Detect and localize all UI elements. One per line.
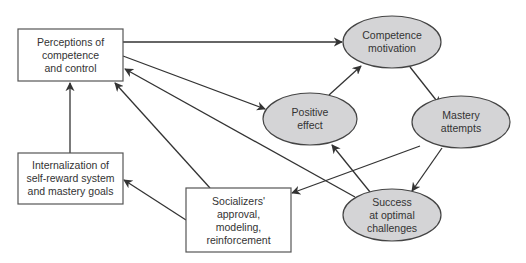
node-mastery-line-1: Mastery xyxy=(442,109,480,121)
node-competence-line-2: motivation xyxy=(368,42,416,54)
edge-perceptions-to-positive-effect xyxy=(123,56,265,109)
node-internalization-line-3: and mastery goals xyxy=(28,185,114,197)
node-mastery-line-2: attempts xyxy=(441,122,481,134)
node-positive-effect-line-2: effect xyxy=(297,119,323,131)
node-internalization: Internalization of self-reward system an… xyxy=(18,153,123,204)
node-perceptions-line-3: and control xyxy=(45,62,97,74)
edge-socializers-to-perceptions xyxy=(115,83,210,188)
node-internalization-line-1: Internalization of xyxy=(32,159,109,171)
node-perceptions: Perceptions of competence and control xyxy=(18,29,123,81)
node-socializers-line-3: modeling, xyxy=(216,221,262,233)
edge-mastery-to-socializers xyxy=(292,146,420,193)
node-positive-effect-line-1: Positive xyxy=(292,106,329,118)
node-success-line-2: at optimal xyxy=(369,209,415,221)
node-success: Success at optimal challenges xyxy=(343,189,441,241)
node-socializers-line-4: reinforcement xyxy=(206,234,270,246)
node-positive-effect: Positive effect xyxy=(263,93,357,145)
node-success-line-1: Success xyxy=(372,196,412,208)
node-socializers-line-1: Socializers' xyxy=(212,195,265,207)
competence-motivation-diagram: Perceptions of competence and control In… xyxy=(0,0,526,263)
node-competence-line-1: Competence xyxy=(362,29,422,41)
node-success-line-3: challenges xyxy=(367,222,417,234)
node-perceptions-line-2: competence xyxy=(42,49,99,61)
edge-mastery-to-success xyxy=(412,148,442,191)
node-mastery-attempts: Mastery attempts xyxy=(412,96,510,148)
edge-socializers-to-internalization xyxy=(124,180,186,220)
node-socializers: Socializers' approval, modeling, reinfor… xyxy=(186,188,291,252)
edge-positive-effect-to-competence xyxy=(329,66,361,95)
node-competence-motivation: Competence motivation xyxy=(343,16,441,68)
node-internalization-line-2: self-reward system xyxy=(26,172,114,184)
node-perceptions-line-1: Perceptions of xyxy=(37,36,104,48)
edge-success-to-positive-effect xyxy=(332,145,370,192)
node-socializers-line-2: approval, xyxy=(217,208,260,220)
